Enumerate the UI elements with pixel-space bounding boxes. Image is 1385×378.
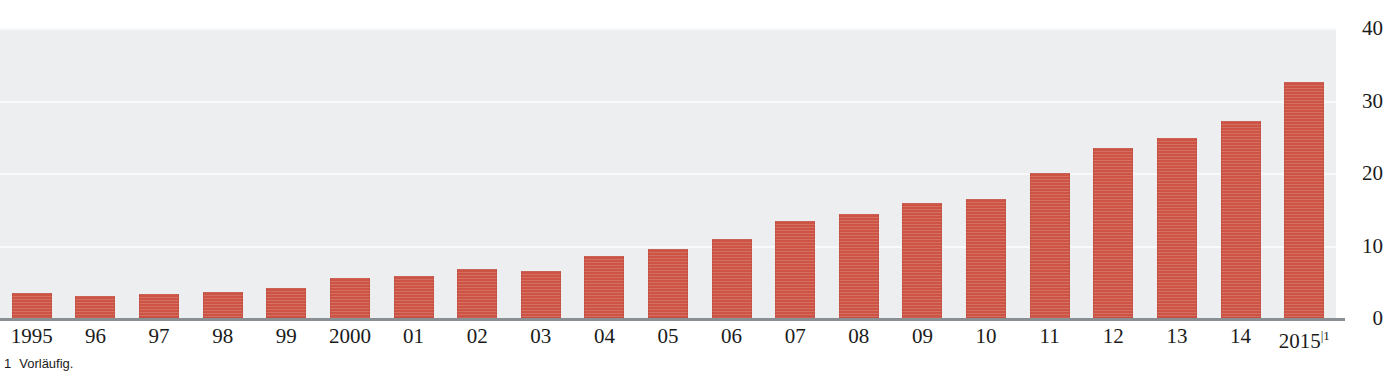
bar[interactable] [839,214,879,318]
bar[interactable] [521,271,561,318]
bar-slot [891,28,955,318]
bar[interactable] [648,249,688,318]
y-axis-tick-label: 20 [1362,163,1383,184]
bar[interactable] [139,294,179,318]
footnote: 1Vorläufig. [4,356,73,371]
x-axis-tick-label: 96 [85,324,106,348]
x-axis-tick-label: 97 [149,324,170,348]
x-axis-tick-label: 99 [276,324,297,348]
bar-slot [1272,28,1336,318]
bar-slot [636,28,700,318]
y-axis-labels: 010203040 [1346,0,1385,330]
bar[interactable] [712,239,752,318]
clipped-header-text [2,0,122,9]
bar-slot [954,28,1018,318]
y-axis-tick-label: 0 [1373,308,1384,329]
x-axis-tick-label: 2015|1 [1279,324,1330,353]
x-axis-tick-label: 98 [212,324,233,348]
bar[interactable] [12,293,52,318]
x-axis-tick-label: 10 [976,324,997,348]
footnote-text: Vorläufig. [19,356,73,371]
x-axis-tick-label: 13 [1166,324,1187,348]
bar-slot [318,28,382,318]
footnote-marker: 1 [4,356,11,371]
bar[interactable] [1093,148,1133,318]
bar[interactable] [394,276,434,318]
bar[interactable] [203,292,243,318]
bar[interactable] [457,269,497,318]
bar[interactable] [966,199,1006,318]
bar[interactable] [266,288,306,318]
bar[interactable] [1221,121,1261,318]
bar-slot [1145,28,1209,318]
bar[interactable] [902,203,942,318]
x-axis-tick-label: 02 [467,324,488,348]
bar-slot [509,28,573,318]
bar-slot [700,28,764,318]
bar[interactable] [75,296,115,318]
bar-slot [1082,28,1146,318]
bar-slot [64,28,128,318]
x-axis-tick-label: 04 [594,324,615,348]
bar[interactable] [775,221,815,318]
bar[interactable] [1284,82,1324,318]
bar-slot [445,28,509,318]
y-axis-tick-label: 40 [1362,18,1383,39]
x-axis-tick-label: 07 [785,324,806,348]
bar-slot [127,28,191,318]
x-axis-footnote-marker: |1 [1321,328,1330,343]
bar[interactable] [584,256,624,318]
bar[interactable] [1030,173,1070,318]
bar-slot [573,28,637,318]
x-axis-labels: 1995969798992000010203040506070809101112… [0,324,1336,354]
bar[interactable] [330,278,370,318]
bar-chart-figure: 010203040 199596979899200001020304050607… [0,0,1385,378]
bar-slot [827,28,891,318]
x-axis-tick-label: 09 [912,324,933,348]
bar-slot [0,28,64,318]
x-axis-tick-label: 11 [1040,324,1060,348]
bar[interactable] [1157,138,1197,318]
x-axis-line [0,318,1345,321]
bar-slot [191,28,255,318]
y-axis-tick-label: 30 [1362,90,1383,111]
x-axis-tick-label: 08 [848,324,869,348]
x-axis-tick-label: 2000 [329,324,371,348]
x-axis-tick-label: 12 [1103,324,1124,348]
x-axis-tick-label: 01 [403,324,424,348]
bar-slot [1209,28,1273,318]
x-axis-tick-label: 03 [530,324,551,348]
x-axis-tick-label: 14 [1230,324,1251,348]
bar-slot [1018,28,1082,318]
bar-series [0,28,1336,318]
y-axis-tick-label: 10 [1362,235,1383,256]
x-axis-tick-label: 05 [658,324,679,348]
bar-slot [763,28,827,318]
bar-slot [382,28,446,318]
x-axis-tick-label: 1995 [11,324,53,348]
x-axis-tick-label: 06 [721,324,742,348]
bar-slot [254,28,318,318]
